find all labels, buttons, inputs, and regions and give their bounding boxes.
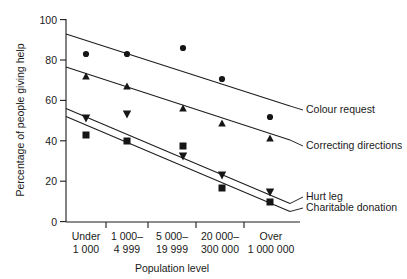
- series-label-correcting-directions: Correcting directions: [306, 139, 402, 151]
- x-tick-label-1-line2: 1 000: [73, 243, 99, 255]
- y-tick-label-80: 80: [45, 54, 57, 66]
- x-axis-tick-labels: Under 1 000 1 000– 4 999 5 000– 19 999 2…: [72, 230, 295, 255]
- data-point: [124, 138, 131, 145]
- data-point: [180, 143, 187, 150]
- x-tick-label-5-line1: Over: [260, 230, 283, 242]
- x-tick-label-4-line2: 300 000: [201, 243, 239, 255]
- data-point: [83, 132, 90, 139]
- x-tick-label-2-line1: 1 000–: [111, 230, 143, 242]
- x-tick-label-3-line1: 5 000–: [156, 230, 188, 242]
- leader-line-hurt-leg: [290, 197, 303, 204]
- y-tick-label-60: 60: [45, 94, 57, 106]
- series-markers-correcting-directions: [82, 73, 274, 142]
- series-labels: Colour request Correcting directions Hur…: [306, 103, 402, 213]
- data-point: [219, 76, 225, 82]
- y-axis-ticks: [60, 20, 66, 222]
- y-tick-label-100: 100: [39, 14, 57, 26]
- y-tick-label-20: 20: [45, 175, 57, 187]
- data-point: [82, 73, 90, 80]
- data-point: [180, 45, 186, 51]
- x-tick-label-1-line1: Under: [72, 230, 101, 242]
- leader-line-correcting-directions: [290, 140, 303, 146]
- x-axis-title: Population level: [135, 262, 209, 274]
- x-tick-label-5-line2: 1 000 000: [248, 243, 295, 255]
- trend-line-charitable-donation: [66, 117, 290, 212]
- y-tick-label-40: 40: [45, 135, 57, 147]
- series-markers-colour-request: [83, 45, 273, 120]
- data-point: [267, 114, 273, 120]
- data-point: [266, 135, 274, 142]
- data-point: [267, 199, 274, 206]
- chart-figure: 100 80 60 40 20 0 Percentage of people g…: [0, 0, 407, 279]
- x-tick-label-4-line1: 20 000–: [201, 230, 239, 242]
- data-point: [219, 185, 226, 192]
- trend-line-colour-request: [66, 34, 290, 106]
- data-point: [83, 51, 89, 57]
- trend-line-correcting-directions: [66, 67, 290, 140]
- trend-line-hurt-leg: [66, 109, 290, 204]
- series-markers-hurt-leg: [82, 111, 274, 197]
- x-axis-ticks: [106, 222, 244, 228]
- x-tick-label-2-line2: 4 999: [114, 243, 140, 255]
- y-axis-tick-labels: 100 80 60 40 20 0: [39, 14, 57, 228]
- series-label-charitable-donation: Charitable donation: [306, 201, 397, 213]
- leader-line-charitable-donation: [290, 208, 303, 212]
- data-point: [218, 120, 226, 127]
- data-point: [266, 189, 274, 197]
- data-point: [123, 111, 131, 119]
- x-tick-label-3-line2: 19 999: [156, 243, 188, 255]
- series-label-colour-request: Colour request: [306, 103, 375, 115]
- series-markers-charitable-donation: [83, 132, 274, 206]
- leader-line-colour-request: [290, 106, 303, 110]
- population-help-scatter-chart: 100 80 60 40 20 0 Percentage of people g…: [0, 0, 407, 279]
- y-axis-title: Percentage of people giving help: [14, 43, 26, 196]
- y-tick-label-0: 0: [51, 216, 57, 228]
- data-point: [124, 51, 130, 57]
- series-label-leader-lines: [290, 106, 303, 212]
